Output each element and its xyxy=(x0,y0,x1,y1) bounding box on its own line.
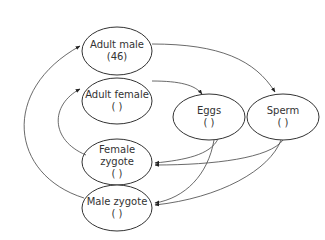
label-female-zygote-count: ( ) xyxy=(99,168,135,180)
label-sperm-title: Sperm xyxy=(267,105,300,117)
edge-eggs-to-male-zygote xyxy=(155,140,214,203)
label-female-zygote-line1: Female xyxy=(99,144,135,156)
label-female-zygote: Female zygote ( ) xyxy=(99,144,135,180)
label-eggs: Eggs ( ) xyxy=(197,105,221,129)
edge-sperm-to-female-zygote xyxy=(155,140,283,165)
edge-male-zygote-to-adult-male xyxy=(24,46,84,198)
label-sperm-count: ( ) xyxy=(267,117,300,129)
label-adult-female-title: Adult female xyxy=(85,89,149,101)
label-adult-male: Adult male (46) xyxy=(90,39,144,63)
label-female-zygote-line2: zygote xyxy=(99,156,135,168)
label-sperm: Sperm ( ) xyxy=(267,105,300,129)
label-adult-female: Adult female ( ) xyxy=(85,89,149,113)
label-adult-female-count: ( ) xyxy=(85,101,149,113)
edge-adult-male-to-sperm xyxy=(152,44,275,92)
edge-adult-female-to-eggs xyxy=(152,81,202,94)
edge-sperm-to-male-zygote xyxy=(155,140,281,205)
label-male-zygote-count: ( ) xyxy=(87,208,148,220)
label-eggs-count: ( ) xyxy=(197,117,221,129)
label-adult-male-count: (46) xyxy=(90,51,144,63)
label-eggs-title: Eggs xyxy=(197,105,221,117)
label-adult-male-title: Adult male xyxy=(90,39,144,51)
label-male-zygote: Male zygote ( ) xyxy=(87,196,148,220)
label-male-zygote-title: Male zygote xyxy=(87,196,148,208)
